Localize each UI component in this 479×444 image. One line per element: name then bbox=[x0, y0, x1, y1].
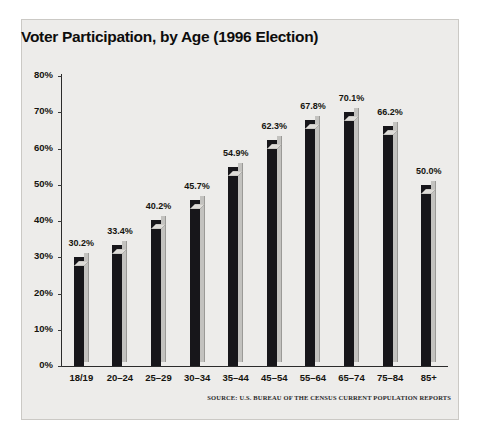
bar[interactable] bbox=[305, 115, 320, 366]
bar-side-face bbox=[354, 108, 359, 362]
y-axis-tick-label: 70% bbox=[34, 105, 53, 116]
y-axis-tick-mark bbox=[58, 185, 62, 186]
x-axis-tick-label: 75–84 bbox=[371, 372, 410, 383]
y-axis-tick-mark bbox=[58, 221, 62, 222]
bar-top-face bbox=[421, 180, 436, 185]
bar[interactable] bbox=[383, 121, 398, 366]
bar-front-face bbox=[190, 200, 200, 366]
y-axis-tick-label: 10% bbox=[34, 323, 53, 334]
x-axis-tick-label: 18/19 bbox=[62, 372, 101, 383]
x-axis-tick-label: 65–74 bbox=[332, 372, 371, 383]
source-note: SOURCE: U.S. BUREAU OF THE CENSUS CURREN… bbox=[207, 394, 451, 401]
bar-value-label: 67.8% bbox=[300, 101, 326, 111]
bar-value-label: 33.4% bbox=[107, 226, 133, 236]
bar-front-face bbox=[267, 140, 277, 366]
x-axis-tick-label: 45–54 bbox=[255, 372, 294, 383]
bar-front-face bbox=[421, 185, 431, 366]
bar-top-face bbox=[305, 115, 320, 120]
bar-group[interactable]: 45.7% bbox=[190, 181, 205, 366]
bar-top-face bbox=[74, 252, 89, 257]
bar-side-face bbox=[431, 181, 436, 362]
bar-group[interactable]: 67.8% bbox=[305, 101, 320, 366]
bar-front-face bbox=[112, 245, 122, 366]
bar-front-face bbox=[74, 257, 84, 366]
bar-group[interactable]: 54.9% bbox=[228, 148, 243, 366]
bar-group[interactable]: 40.2% bbox=[151, 201, 166, 366]
bar-side-face bbox=[122, 241, 127, 362]
y-axis-tick-label: 0% bbox=[39, 359, 53, 370]
bar-side-face bbox=[315, 116, 320, 362]
bar[interactable] bbox=[344, 107, 359, 366]
bar-front-face bbox=[151, 220, 161, 366]
bar[interactable] bbox=[267, 135, 282, 366]
bar-top-face bbox=[112, 240, 127, 245]
bar-front-face bbox=[344, 112, 354, 366]
bar-group[interactable]: 33.4% bbox=[112, 226, 127, 366]
x-axis-line bbox=[61, 366, 448, 367]
bar-value-label: 45.7% bbox=[184, 181, 210, 191]
bar[interactable] bbox=[74, 252, 89, 366]
bar-front-face bbox=[305, 120, 315, 366]
bar-group[interactable]: 70.1% bbox=[344, 93, 359, 366]
y-axis-tick-mark bbox=[58, 330, 62, 331]
bar-front-face bbox=[383, 126, 393, 366]
chart-figure: Voter Participation, by Age (1996 Electi… bbox=[0, 0, 479, 444]
y-axis-tick-label: 50% bbox=[34, 178, 53, 189]
y-axis-tick-label: 20% bbox=[34, 287, 53, 298]
bar-side-face bbox=[393, 122, 398, 362]
y-axis-tick-mark bbox=[58, 257, 62, 258]
y-axis-tick-mark bbox=[58, 294, 62, 295]
bar-top-face bbox=[267, 135, 282, 140]
y-axis-tick-mark bbox=[58, 76, 62, 77]
bar-side-face bbox=[84, 253, 89, 362]
bar-value-label: 70.1% bbox=[339, 93, 365, 103]
bar[interactable] bbox=[228, 162, 243, 366]
bar-value-label: 66.2% bbox=[377, 107, 403, 117]
bar-side-face bbox=[277, 136, 282, 362]
bar-side-face bbox=[200, 196, 205, 362]
bar-front-face bbox=[228, 167, 238, 366]
bar-top-face bbox=[151, 215, 166, 220]
bar-value-label: 30.2% bbox=[69, 238, 95, 248]
bar-value-label: 54.9% bbox=[223, 148, 249, 158]
bar-top-face bbox=[190, 195, 205, 200]
y-axis-tick-mark bbox=[58, 366, 62, 367]
bar-top-face bbox=[344, 107, 359, 112]
x-axis-tick-label: 30–34 bbox=[178, 372, 217, 383]
bar[interactable] bbox=[421, 180, 436, 366]
bar-side-face bbox=[161, 216, 166, 362]
bar-group[interactable]: 50.0% bbox=[421, 166, 436, 366]
bar-top-face bbox=[383, 121, 398, 126]
chart-title: Voter Participation, by Age (1996 Electi… bbox=[21, 28, 318, 46]
bar-group[interactable]: 30.2% bbox=[74, 238, 89, 366]
bar-group[interactable]: 62.3% bbox=[267, 121, 282, 366]
bar-top-face bbox=[228, 162, 243, 167]
y-axis-tick-label: 80% bbox=[34, 69, 53, 80]
bar-value-label: 50.0% bbox=[416, 166, 442, 176]
bar-value-label: 62.3% bbox=[262, 121, 288, 131]
y-axis-tick-label: 60% bbox=[34, 142, 53, 153]
x-axis-tick-label: 55–64 bbox=[294, 372, 333, 383]
bar-side-face bbox=[238, 163, 243, 362]
bar[interactable] bbox=[112, 240, 127, 366]
x-axis-tick-label: 20–24 bbox=[101, 372, 140, 383]
y-axis-tick-label: 30% bbox=[34, 250, 53, 261]
y-axis-tick-mark bbox=[58, 112, 62, 113]
bar[interactable] bbox=[190, 195, 205, 366]
x-axis-tick-label: 35–44 bbox=[216, 372, 255, 383]
bar-group[interactable]: 66.2% bbox=[383, 107, 398, 366]
y-axis-tick-label: 40% bbox=[34, 214, 53, 225]
x-axis-tick-label: 85+ bbox=[409, 372, 448, 383]
bar-value-label: 40.2% bbox=[146, 201, 172, 211]
y-axis-tick-mark bbox=[58, 149, 62, 150]
x-axis-tick-label: 25–29 bbox=[139, 372, 178, 383]
bar[interactable] bbox=[151, 215, 166, 366]
